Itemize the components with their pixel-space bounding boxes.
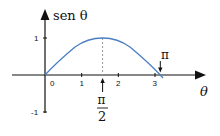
y-axis [41,9,50,113]
x-tick-label-3: 3 [153,79,158,88]
pi-half-denominator: 2 [98,109,106,124]
x-tick-label-2: 2 [116,79,121,88]
x-axis-arrow-icon [195,71,206,80]
x-tick-label-0: 0 [50,79,55,88]
y-axis-arrow-icon [41,9,50,20]
x-tick-label-1: 1 [80,79,85,88]
y-axis-label: sen θ [53,8,88,23]
x-axis-label: θ [200,84,208,99]
pi-label: π [161,48,169,62]
y-tick-label-1: 1 [34,34,39,43]
y-tick-label-minus1: -1 [31,108,39,117]
pi-half-arrow-icon [100,78,104,92]
pi-half-numerator: π [98,93,106,107]
x-axis [12,71,206,80]
sine-diagram: sen θ θ 0 1 2 3 1 -1 π 2 π [0,0,220,136]
pi-arrow-icon [158,61,162,73]
